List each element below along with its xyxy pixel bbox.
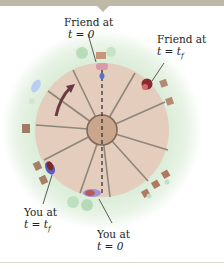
bench-left <box>22 124 30 133</box>
label-you-t0-line1: You at <box>97 228 130 240</box>
bottom-divider <box>0 262 224 263</box>
label-friend-t0: Friend at t = 0 <box>64 16 113 40</box>
label-you-tf-line1: You at <box>24 206 57 218</box>
label-friend-tf-line2: t = tf <box>157 45 206 62</box>
label-friend-t0-line2: t = 0 <box>64 28 113 40</box>
label-you-tf-line2: t = tf <box>24 218 57 235</box>
label-friend-tf-line1: Friend at <box>157 33 206 45</box>
label-friend-t0-line1: Friend at <box>64 16 113 28</box>
label-friend-tf: Friend at t = tf <box>157 33 206 62</box>
label-you-tf: You at t = tf <box>24 206 57 235</box>
label-you-t0: You at t = 0 <box>97 228 130 252</box>
label-you-t0-line2: t = 0 <box>97 240 130 252</box>
ball-icon <box>100 73 105 79</box>
